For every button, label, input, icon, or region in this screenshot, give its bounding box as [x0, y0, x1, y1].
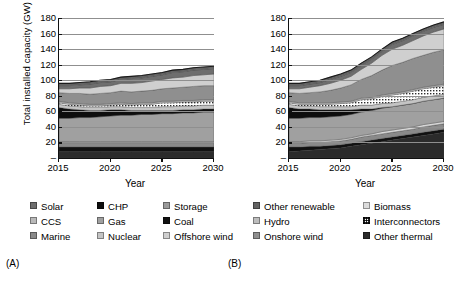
- legend-item[interactable]: Nuclear: [97, 229, 141, 242]
- legend-swatch: [363, 202, 370, 209]
- legend-item[interactable]: Gas: [97, 214, 126, 227]
- stacked-area-b: [289, 18, 444, 158]
- y-tick-mark: [58, 34, 62, 35]
- y-axis-ticks-b: 18016014012010080604020–: [256, 18, 286, 158]
- y-tick-label: 180: [260, 13, 286, 22]
- area-series: [59, 152, 214, 158]
- plot-area-b: [288, 18, 444, 159]
- legend-label: Nuclear: [108, 231, 141, 242]
- legend-item[interactable]: Offshore wind: [163, 229, 233, 242]
- panel-a: Total installed capacity (GW) 1801601401…: [0, 0, 231, 196]
- x-axis-ticks-a: 2015202020252030: [58, 160, 213, 174]
- legend-label: Onshore wind: [264, 231, 323, 242]
- area-series: [59, 143, 214, 147]
- gridline: [59, 34, 214, 35]
- x-tick-label: 2030: [423, 162, 461, 173]
- panel-b: 18016014012010080604020– 201520202025203…: [230, 0, 461, 196]
- gridline: [289, 142, 444, 143]
- x-tick-mark: [110, 158, 111, 162]
- legend-swatch: [253, 232, 260, 239]
- x-axis-ticks-b: 2015202020252030: [288, 160, 443, 174]
- legend-label: Biomass: [374, 201, 411, 212]
- y-tick-mark: [58, 111, 62, 112]
- legend-label: Storage: [174, 201, 208, 212]
- legend-item[interactable]: Biomass: [363, 199, 411, 212]
- y-tick-label: 80: [30, 91, 56, 100]
- gridline: [59, 80, 214, 81]
- gridline: [289, 18, 444, 19]
- gridline: [289, 80, 444, 81]
- y-tick-label: 140: [260, 44, 286, 53]
- y-tick-mark: [288, 18, 292, 19]
- y-tick-mark: [58, 18, 62, 19]
- y-tick-mark: [58, 65, 62, 66]
- legend-label: Solar: [41, 201, 63, 212]
- legend-swatch: [30, 202, 37, 209]
- y-tick-label: 100: [260, 75, 286, 84]
- y-tick-label: 60: [30, 106, 56, 115]
- legend-item[interactable]: Marine: [30, 229, 70, 242]
- y-tick-mark: [288, 96, 292, 97]
- legend-item[interactable]: Other thermal: [363, 229, 433, 242]
- legend-item[interactable]: Storage: [163, 199, 208, 212]
- y-tick-label: 40: [260, 122, 286, 131]
- gridline: [289, 49, 444, 50]
- legend-swatch: [253, 202, 260, 209]
- gridline: [289, 65, 444, 66]
- y-tick-mark: [58, 127, 62, 128]
- x-axis-label-a: Year: [55, 178, 215, 189]
- y-tick-label: 60: [260, 106, 286, 115]
- y-tick-label: 20: [30, 137, 56, 146]
- x-tick-mark: [443, 158, 444, 162]
- legend-item[interactable]: Coal: [163, 214, 194, 227]
- plot-area-a: [58, 18, 214, 159]
- legend-swatch: [97, 202, 104, 209]
- x-tick-label: 2020: [90, 162, 130, 173]
- legend-item[interactable]: Other renewable: [253, 199, 335, 212]
- legend-swatch: [97, 232, 104, 239]
- y-tick-mark: [288, 111, 292, 112]
- gridline: [59, 96, 214, 97]
- x-tick-mark: [340, 158, 341, 162]
- y-tick-mark: [288, 65, 292, 66]
- legend-swatch: [30, 217, 37, 224]
- legend-label: Interconnectors: [374, 216, 440, 227]
- y-tick-mark: [288, 142, 292, 143]
- y-tick-label: 140: [30, 44, 56, 53]
- y-tick-label: 160: [260, 29, 286, 38]
- gridline: [289, 111, 444, 112]
- panel-label-a: (A): [6, 258, 19, 269]
- legend-swatch: [97, 217, 104, 224]
- legend-item[interactable]: Interconnectors: [363, 214, 440, 227]
- x-tick-label: 2015: [38, 162, 78, 173]
- gridline: [59, 49, 214, 50]
- y-tick-label: –: [260, 153, 286, 162]
- y-tick-label: 100: [30, 75, 56, 84]
- y-tick-label: 80: [260, 91, 286, 100]
- y-tick-mark: [58, 142, 62, 143]
- legend-item[interactable]: CHP: [97, 199, 128, 212]
- stacked-area-a: [59, 18, 214, 158]
- y-tick-label: 20: [260, 137, 286, 146]
- figure-container: Total installed capacity (GW) 1801601401…: [0, 0, 461, 283]
- y-tick-mark: [58, 49, 62, 50]
- x-tick-mark: [58, 158, 59, 162]
- legend-item[interactable]: Hydro: [253, 214, 290, 227]
- legend-item[interactable]: Onshore wind: [253, 229, 323, 242]
- y-tick-label: 120: [260, 60, 286, 69]
- legend-item[interactable]: CCS: [30, 214, 61, 227]
- legend-label: Marine: [41, 231, 70, 242]
- legend-label: Offshore wind: [174, 231, 233, 242]
- y-tick-mark: [288, 127, 292, 128]
- gridline: [59, 111, 214, 112]
- y-tick-mark: [288, 80, 292, 81]
- legend-label: Hydro: [264, 216, 290, 227]
- y-tick-mark: [58, 96, 62, 97]
- y-tick-label: 120: [30, 60, 56, 69]
- legend-swatch: [163, 202, 170, 209]
- y-tick-mark: [58, 80, 62, 81]
- x-tick-mark: [213, 158, 214, 162]
- y-axis-ticks-a: 18016014012010080604020–: [26, 18, 56, 158]
- legend-item[interactable]: Solar: [30, 199, 63, 212]
- y-tick-label: 180: [30, 13, 56, 22]
